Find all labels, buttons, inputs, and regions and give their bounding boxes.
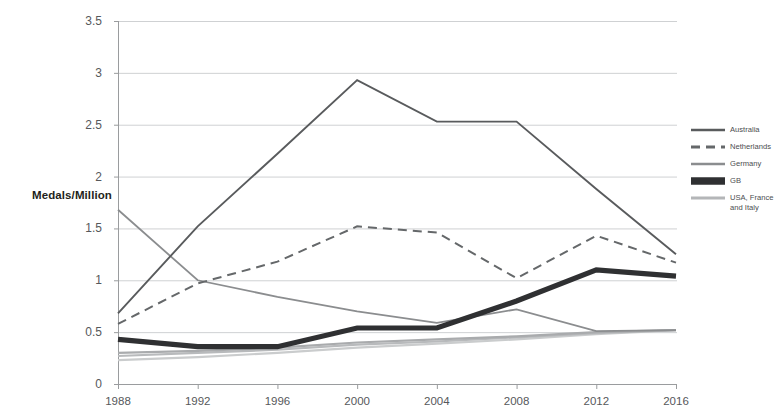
x-tick-label: 2000 [330, 395, 384, 407]
x-tick-label: 2008 [490, 395, 544, 407]
x-tick-label: 2004 [410, 395, 464, 407]
y-tick-label: 3 [70, 67, 102, 79]
y-tick-label: 1.5 [70, 222, 102, 234]
legend-item: Netherlands [691, 140, 783, 157]
x-tick-label: 2012 [569, 395, 623, 407]
x-tick-label: 1996 [250, 395, 304, 407]
legend-item: Germany [691, 157, 783, 174]
legend-swatch [691, 123, 725, 137]
legend-item: GB [691, 174, 783, 191]
chart-legend: AustraliaNetherlandsGermanyGBUSA, France… [691, 123, 783, 221]
legend-swatch [691, 174, 725, 188]
legend-item: Australia [691, 123, 783, 140]
legend-swatch [691, 191, 725, 205]
y-tick-label: 0 [70, 378, 102, 390]
data-series-group [118, 80, 676, 360]
legend-swatch [691, 157, 725, 171]
y-tick-label: 2.5 [70, 119, 102, 131]
x-tick-label: 1992 [171, 395, 225, 407]
y-tick-label: 3.5 [70, 15, 102, 27]
plot-area [0, 0, 783, 419]
series-line-australia [118, 80, 676, 313]
legend-label: USA, France and Italy [730, 191, 773, 212]
series-line-netherlands [118, 226, 676, 323]
legend-label: Australia [730, 123, 760, 135]
series-line [118, 330, 676, 356]
legend-swatch [691, 140, 725, 154]
legend-label: GB [730, 174, 741, 186]
x-tick-label: 1988 [91, 395, 145, 407]
legend-label: Germany [730, 157, 761, 169]
medals-per-million-line-chart: Medals/Million 00.511.522.533.5 19881992… [0, 0, 783, 419]
legend-label: Netherlands [730, 140, 771, 152]
y-tick-label: 1 [70, 274, 102, 286]
y-axis-title: Medals/Million [8, 189, 112, 201]
x-tick-label: 2016 [649, 395, 703, 407]
y-tick-label: 2 [70, 171, 102, 183]
legend-item: USA, France and Italy [691, 191, 783, 221]
y-tick-label: 0.5 [70, 326, 102, 338]
